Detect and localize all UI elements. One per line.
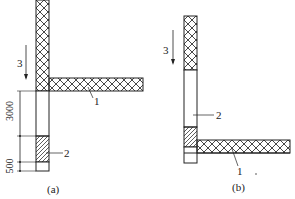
slab-label-a: 1 (94, 96, 100, 107)
base-segment (184, 147, 197, 163)
vertical-wall-hatched (184, 16, 197, 70)
block-2 (184, 127, 197, 147)
vertical-wall-plain (184, 70, 197, 127)
arrow-label-a: 3 (17, 58, 23, 69)
panel-a (17, 0, 143, 172)
dimension-3000: 3000 (5, 97, 15, 125)
block-label-b: 2 (216, 110, 222, 121)
horizontal-slab (197, 140, 290, 153)
horizontal-slab (49, 78, 143, 91)
base-segment (36, 162, 49, 171)
panel-b (171, 16, 290, 175)
vertical-wall-hatched (36, 0, 49, 91)
block-label-a: 2 (64, 148, 70, 159)
dimension-500: 500 (5, 157, 15, 175)
slab-label-b: 1 (237, 166, 243, 177)
diagram-canvas (0, 0, 295, 199)
block-2 (36, 136, 49, 162)
arrow-label-b: 3 (163, 45, 169, 56)
caption-a: (a) (47, 184, 59, 195)
vertical-wall-plain (36, 91, 49, 136)
caption-b: (b) (232, 182, 245, 193)
